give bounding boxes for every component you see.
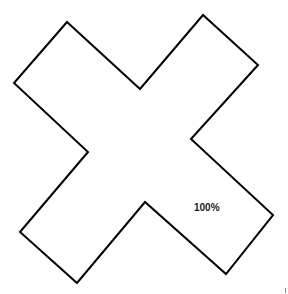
- corner-mark: [285, 288, 286, 293]
- x-cross-outline: [14, 15, 273, 283]
- zoom-percentage-label: 100%: [194, 202, 220, 213]
- x-cross-shape: [0, 0, 288, 294]
